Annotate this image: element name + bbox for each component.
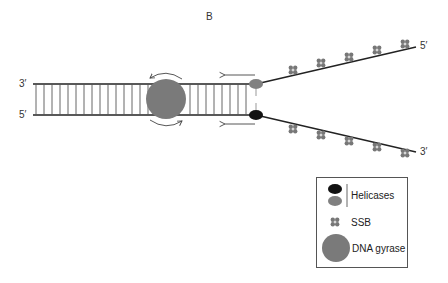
- helicase-black-icon: [249, 110, 263, 120]
- dna-gyrase: [146, 73, 186, 126]
- fork-bottom-strand: [256, 115, 416, 152]
- base-pair-rungs: [36, 84, 246, 115]
- rotation-arrow-top-icon: [150, 73, 182, 79]
- right-top-end-label: 5′: [420, 41, 427, 51]
- legend-label-dna-gyrase: DNA gyrase: [352, 243, 405, 254]
- helicase-gray-icon: [249, 79, 263, 89]
- dna-duplex: [33, 84, 256, 115]
- ssb-bottom-arm: [289, 125, 410, 158]
- fork-top-strand: [256, 47, 416, 84]
- right-bottom-end-label: 3′: [420, 147, 427, 157]
- left-top-end-label: 3′: [19, 79, 26, 89]
- legend-label-ssb: SSB: [351, 217, 371, 228]
- legend-label-helicases: Helicases: [351, 190, 394, 201]
- gyrase-circle-icon: [146, 79, 186, 119]
- left-bottom-end-label: 5′: [19, 110, 26, 120]
- rotation-arrow-bottom-icon: [150, 120, 182, 126]
- ssb-top-arm: [289, 40, 410, 75]
